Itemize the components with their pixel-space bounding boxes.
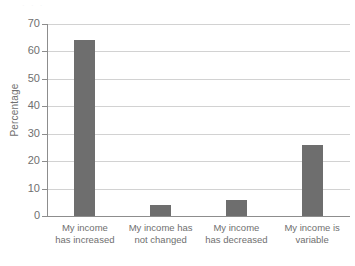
y-axis-title: Percentage [10, 65, 20, 155]
category-label-line: not changed [124, 234, 198, 246]
bar [150, 205, 171, 216]
y-axis-tick-mark [42, 189, 47, 190]
y-axis-tick-mark [42, 161, 47, 162]
x-axis-line [47, 216, 350, 217]
x-axis-category-label: My incomehas decreased [199, 222, 275, 262]
category-label-line: My income has [124, 222, 198, 234]
x-axis-category-labels: My incomehas increasedMy income hasnot c… [47, 222, 350, 262]
y-axis-tick-label: 50 [2, 73, 40, 84]
y-axis-tick-mark [42, 24, 47, 25]
bar [226, 200, 247, 216]
y-axis-tick-mark [42, 216, 47, 217]
bar-chart-figure: · · · 010203040506070 Percentage My inco… [0, 0, 355, 266]
y-axis-tick-mark [42, 51, 47, 52]
category-label-line: My income [200, 222, 274, 234]
y-axis-tick-label: 10 [2, 183, 40, 194]
plot-area [47, 24, 350, 216]
x-axis-category-label: My income hasnot changed [123, 222, 199, 262]
y-axis-tick-label: 70 [2, 18, 40, 29]
y-axis-tick-label: 20 [2, 155, 40, 166]
bar [74, 40, 95, 216]
x-axis-category-label: My income isvariable [274, 222, 350, 262]
y-axis-tick-mark [42, 106, 47, 107]
category-label-line: variable [275, 234, 349, 246]
y-axis-tick-label: 40 [2, 100, 40, 111]
y-axis-tick-label: 30 [2, 128, 40, 139]
x-axis-category-label: My incomehas increased [47, 222, 123, 262]
category-label-line: has decreased [200, 234, 274, 246]
scan-artifact-text: · · · [22, 1, 142, 10]
y-axis-tick-mark [42, 134, 47, 135]
y-axis-tick-label: 60 [2, 45, 40, 56]
gridline [47, 24, 350, 25]
category-label-line: has increased [48, 234, 122, 246]
category-label-line: My income is [275, 222, 349, 234]
category-label-line: My income [48, 222, 122, 234]
y-axis-tick-labels: 010203040506070 [0, 0, 40, 266]
y-axis-tick-mark [42, 79, 47, 80]
y-axis-line [47, 24, 48, 216]
bar [302, 145, 323, 216]
y-axis-tick-label: 0 [2, 210, 40, 221]
